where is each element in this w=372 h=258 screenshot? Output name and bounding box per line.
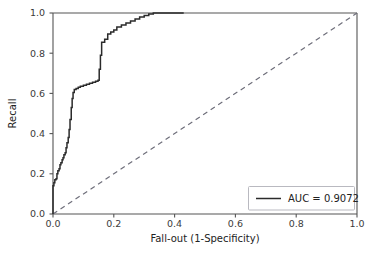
x-tick-label-3: 0.6 (228, 218, 243, 229)
y-tick-label-5: 1.0 (30, 7, 45, 18)
legend-label-auc: AUC = 0.9072 (288, 193, 359, 204)
y-tick-label-4: 0.8 (30, 48, 45, 59)
x-tick-label-1: 0.2 (106, 218, 121, 229)
x-axis-title: Fall-out (1-Specificity) (150, 233, 259, 244)
y-tick-label-1: 0.2 (30, 168, 45, 179)
y-axis-title: Recall (7, 99, 18, 129)
x-tick-label-0: 0.0 (45, 218, 60, 229)
legend: AUC = 0.9072 (249, 187, 359, 211)
x-tick-label-5: 1.0 (349, 218, 364, 229)
y-tick-label-2: 0.4 (30, 128, 45, 139)
roc-plot-svg: 0.0 0.2 0.4 0.6 0.8 1.0 0.0 0.2 0.4 0.6 … (0, 0, 372, 258)
x-tick-label-4: 0.8 (289, 218, 304, 229)
y-tick-label-3: 0.6 (30, 88, 45, 99)
roc-chart-figure: 0.0 0.2 0.4 0.6 0.8 1.0 0.0 0.2 0.4 0.6 … (0, 0, 372, 258)
y-tick-label-0: 0.0 (30, 208, 45, 219)
x-tick-label-2: 0.4 (167, 218, 182, 229)
